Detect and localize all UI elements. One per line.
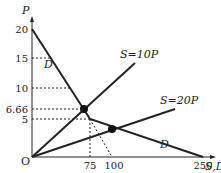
- equilibrium-point-1: [80, 105, 88, 113]
- y-tick-5: 5: [22, 114, 28, 125]
- s20p-label: S=20P: [160, 94, 199, 107]
- guide-lines: [32, 58, 112, 157]
- x-tick-100: 100: [104, 160, 123, 171]
- demand-curve: [32, 29, 203, 157]
- y-tick-15: 15: [15, 53, 28, 64]
- y-tick-10: 10: [15, 83, 28, 94]
- y-axis-arrow-icon: [30, 16, 34, 22]
- y-tick-20: 20: [15, 24, 28, 35]
- demand-label-bottom: D: [159, 138, 169, 151]
- supply-line-s20p: [32, 109, 175, 157]
- x-tick-75: 75: [84, 160, 97, 171]
- demand-label-top: D: [43, 58, 53, 71]
- x-axis-label: S,D: [205, 160, 221, 173]
- origin-label: O: [21, 155, 30, 168]
- supply-demand-chart: P 20 15 10 6.66 5 O 75 100 250 S,D S=10P…: [0, 0, 221, 173]
- equilibrium-point-2: [108, 125, 116, 133]
- x-axis-arrow-icon: [210, 155, 216, 159]
- s10p-label: S=10P: [120, 48, 159, 61]
- p-axis-label: P: [21, 4, 30, 17]
